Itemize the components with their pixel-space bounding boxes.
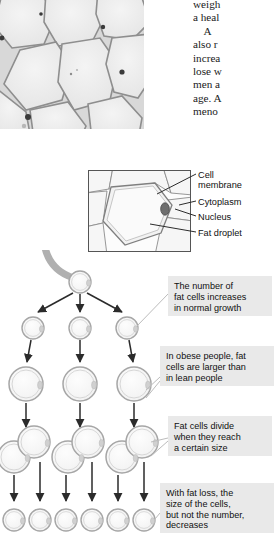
body-line: increa <box>193 52 220 64</box>
body-line: weigh <box>193 0 220 10</box>
fat-cell-lineage-tree <box>0 250 170 549</box>
body-line: men a <box>193 78 220 90</box>
note-growth: The number of fat cells increases in nor… <box>168 276 272 316</box>
tree-row-enlarged <box>9 367 151 401</box>
body-line: also r <box>193 38 218 50</box>
body-line: A <box>193 25 212 37</box>
magnify-curved-arrow <box>38 250 74 278</box>
magnified-cell-diagram <box>88 170 191 252</box>
nucleus-shape <box>161 203 170 215</box>
tree-row-single <box>69 271 91 293</box>
body-line: age. A <box>193 92 222 104</box>
tree-row-shrunken <box>3 509 155 531</box>
note-divide: Fat cells divide when they reach a certa… <box>168 416 272 456</box>
label-cytoplasm: Cytoplasm <box>198 197 241 207</box>
tree-row-dividing <box>0 426 158 473</box>
body-line: a heal <box>193 11 219 23</box>
body-line: meno <box>193 105 218 117</box>
body-line: lose w <box>193 65 222 77</box>
note-obese: In obese people, fat cells are larger th… <box>160 346 274 386</box>
adipose-tissue-micrograph <box>0 0 144 129</box>
figure-root: weigh a heal A also r increa lose w men … <box>0 0 276 549</box>
page-body-text: weigh a heal A also r increa lose w men … <box>193 0 276 119</box>
label-nucleus: Nucleus <box>198 212 231 222</box>
label-fat-droplet: Fat droplet <box>198 228 242 238</box>
label-cell-membrane: Cell membrane <box>198 170 242 191</box>
tree-row-three <box>22 317 138 339</box>
note-fat-loss: With fat loss, the size of the cells, bu… <box>160 483 274 533</box>
